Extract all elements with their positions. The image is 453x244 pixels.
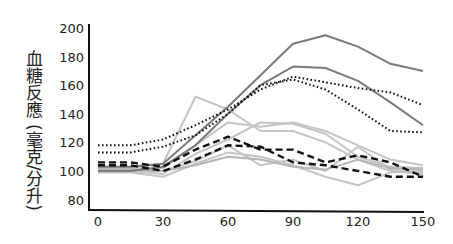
y-axis-ticks: 80100120140160180200 bbox=[59, 21, 84, 208]
y-tick-label: 180 bbox=[59, 50, 84, 65]
x-tick-label: 90 bbox=[285, 214, 302, 229]
y-tick-label: 100 bbox=[59, 164, 84, 179]
y-tick-label: 200 bbox=[59, 21, 84, 36]
x-tick-label: 60 bbox=[220, 214, 237, 229]
x-tick-label: 0 bbox=[94, 214, 102, 229]
y-tick-label: 120 bbox=[59, 135, 84, 150]
y-tick-label: 160 bbox=[59, 78, 84, 93]
series-line-solid-dark-2 bbox=[98, 67, 423, 171]
series-lines bbox=[98, 35, 423, 185]
x-tick-label: 30 bbox=[155, 214, 172, 229]
y-tick-label: 80 bbox=[67, 193, 84, 208]
y-tick-label: 140 bbox=[59, 107, 84, 122]
x-tick-label: 120 bbox=[346, 214, 371, 229]
x-tick-label: 150 bbox=[411, 214, 436, 229]
x-axis-ticks: 0306090120150 bbox=[94, 214, 436, 229]
line-chart: 80100120140160180200 0306090120150 bbox=[0, 0, 453, 244]
x-axis-line bbox=[88, 210, 424, 212]
series-line-dotted-1 bbox=[98, 77, 423, 146]
